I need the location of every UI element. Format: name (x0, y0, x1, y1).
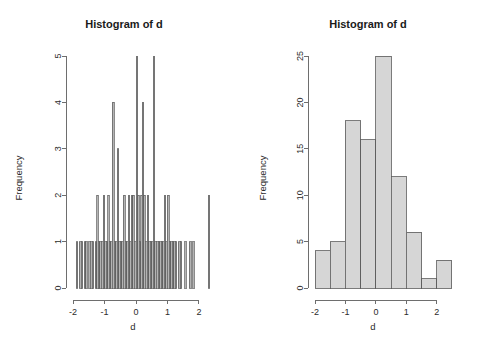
histogram-bar (376, 56, 391, 288)
histogram-bar (330, 242, 345, 288)
histogram-bar (81, 242, 83, 288)
histogram-bar (315, 251, 330, 288)
histogram-bar (208, 195, 210, 288)
histogram-bar (361, 140, 376, 288)
x-tick-label: -1 (101, 307, 109, 317)
x-tick-label: 1 (404, 307, 409, 317)
histogram-bar (345, 121, 360, 288)
x-tick-label: 2 (434, 307, 439, 317)
histogram-bar (185, 242, 187, 288)
y-tick-label: 1 (53, 239, 63, 244)
histogram-bar (92, 242, 94, 288)
x-tick-label: 0 (133, 307, 138, 317)
histogram-bar (76, 242, 78, 288)
x-tick-label: 0 (373, 307, 378, 317)
x-tick-label: -2 (69, 307, 77, 317)
right-panel: Histogram of d Frequency d 0510152025 -2… (238, 0, 476, 359)
y-tick-label: 25 (295, 51, 305, 61)
histogram-bar (180, 242, 182, 288)
histogram-bar (86, 242, 88, 288)
left-histogram-svg: Histogram of d Frequency d 012345 -2-101… (0, 0, 238, 359)
histogram-bar (189, 242, 191, 288)
right-plot-title: Histogram of d (329, 18, 407, 30)
y-tick-label: 4 (53, 100, 63, 105)
histogram-bar (175, 242, 177, 288)
y-tick-label: 20 (295, 97, 305, 107)
y-tick-label: 10 (295, 190, 305, 200)
y-tick-label: 5 (295, 239, 305, 244)
histogram-bar (422, 279, 437, 288)
left-x-axis: -2-1012 (69, 300, 201, 317)
left-x-axis-label: d (130, 321, 135, 332)
left-y-axis-label: Frequency (13, 155, 24, 200)
y-tick-label: 2 (53, 193, 63, 198)
histogram-bar (193, 242, 195, 288)
x-tick-label: 2 (196, 307, 201, 317)
left-bars (76, 56, 210, 288)
left-panel: Histogram of d Frequency d 012345 -2-101… (0, 0, 238, 359)
left-y-axis: 012345 (53, 53, 66, 290)
y-tick-label: 0 (295, 285, 305, 290)
right-x-axis-label: d (370, 321, 375, 332)
left-plot-title: Histogram of d (85, 18, 163, 30)
x-tick-label: -2 (311, 307, 319, 317)
histogram-bar (391, 177, 406, 288)
histogram-bar (437, 260, 452, 288)
right-x-axis: -2-1012 (311, 300, 439, 317)
right-y-axis: 0510152025 (295, 51, 308, 291)
right-bars (315, 56, 452, 288)
x-tick-label: 1 (165, 307, 170, 317)
histogram-figure: Histogram of d Frequency d 012345 -2-101… (0, 0, 477, 359)
y-tick-label: 0 (53, 285, 63, 290)
y-tick-label: 15 (295, 144, 305, 154)
y-tick-label: 5 (53, 53, 63, 58)
histogram-bar (406, 232, 421, 288)
x-tick-label: -1 (341, 307, 349, 317)
right-y-axis-label: Frequency (257, 155, 268, 200)
right-histogram-svg: Histogram of d Frequency d 0510152025 -2… (238, 0, 476, 359)
y-tick-label: 3 (53, 146, 63, 151)
